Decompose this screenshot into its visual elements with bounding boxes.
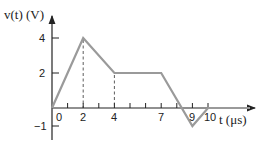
- x-tick-label-9: 9: [189, 111, 195, 123]
- x-tick-label-10: 10: [204, 111, 216, 123]
- waveform-chart: v(t) (V) t (μs) 0 2 4 7 9 10 4 2 −1: [0, 0, 272, 153]
- x-tick-label-7: 7: [158, 111, 164, 123]
- x-tick-label-4: 4: [111, 111, 117, 123]
- x-tick-label-0: 0: [56, 111, 62, 123]
- y-tick-label-minus1: −1: [34, 120, 47, 132]
- y-tick-label-4: 4: [39, 32, 45, 44]
- y-tick-label-2: 2: [39, 67, 45, 79]
- y-axis-label: v(t) (V): [4, 7, 44, 22]
- dashed-guides: [83, 40, 114, 108]
- x-axis-label: t (μs): [219, 112, 247, 127]
- x-tick-label-2: 2: [80, 111, 86, 123]
- x-ticks: [68, 103, 208, 108]
